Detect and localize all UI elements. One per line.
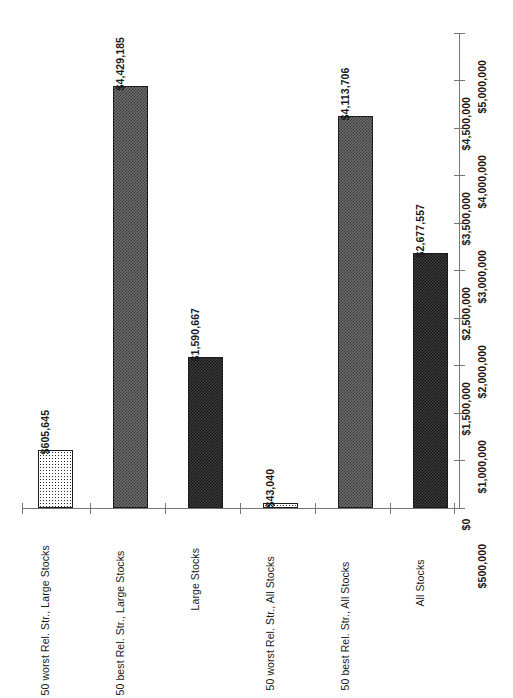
bar-5 [413, 253, 448, 508]
bar-chart: $605,645 $4,429,185 $1,590,667 $43,040 $… [0, 0, 513, 698]
bar-value-label-1: $4,429,185 [115, 37, 126, 91]
x-axis-category-label-1: 50 best Rel. Str., Large Stocks [115, 551, 126, 696]
y-axis-tick [454, 33, 465, 34]
y-axis-tick-label-7: $3,500,000 [461, 192, 472, 246]
bar-0 [38, 450, 73, 508]
plot-area: $605,645 $4,429,185 $1,590,667 $43,040 $… [0, 0, 460, 512]
bar-value-label-3: $43,040 [265, 469, 276, 508]
bar-2 [188, 357, 223, 508]
x-axis-tick [22, 503, 23, 514]
x-axis-tick [90, 503, 91, 514]
y-axis-tick-label-8: $4,000,000 [477, 155, 488, 209]
y-axis-tick-label-4: $2,000,000 [477, 345, 488, 399]
y-axis-tick [454, 270, 465, 271]
x-axis-category-label-3: 50 worst Rel. Str., All Stocks [265, 556, 276, 690]
x-axis-tick [165, 503, 166, 514]
bar-value-label-0: $605,645 [40, 410, 51, 455]
y-axis-tick-label-5: $2,500,000 [461, 287, 472, 341]
bar-1 [113, 86, 148, 508]
y-axis-tick-label-0: $0 [461, 519, 472, 531]
bar-value-label-4: $4,113,706 [340, 68, 351, 121]
y-axis-tick [454, 460, 465, 461]
y-axis-tick-label-1: $500,000 [477, 544, 488, 589]
y-axis-tick-label-9: $4,500,000 [461, 97, 472, 151]
x-axis-category-label-4: 50 best Rel. Str., All Stocks [340, 562, 351, 691]
x-axis-category-label-5: All Stocks [415, 559, 426, 606]
bar-4 [338, 116, 373, 508]
x-axis-category-label-0: 50 worst Rel. Str., Large Stocks [40, 545, 51, 695]
bar-value-label-2: $1,590,667 [190, 308, 201, 362]
x-axis-tick [390, 503, 391, 514]
bar-value-label-5: $2,677,557 [415, 204, 426, 258]
y-axis-tick [454, 508, 465, 509]
y-axis-tick-label-6: $3,000,000 [477, 250, 488, 304]
y-axis-tick [454, 80, 465, 81]
y-axis-tick [454, 365, 465, 366]
y-axis-tick-label-3: $1,500,000 [461, 382, 472, 436]
y-axis-tick-label-10: $5,000,000 [477, 60, 488, 114]
x-axis-tick [240, 503, 241, 514]
y-axis-tick-label-2: $1,000,000 [477, 440, 488, 494]
y-axis-tick [454, 175, 465, 176]
x-axis-category-label-2: Large Stocks [190, 548, 201, 610]
x-axis-tick [315, 503, 316, 514]
